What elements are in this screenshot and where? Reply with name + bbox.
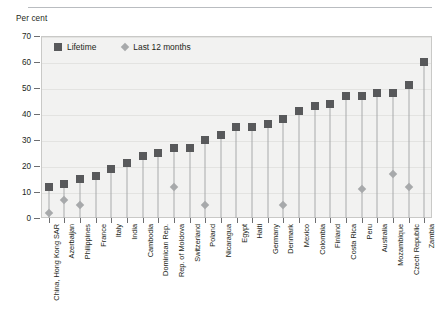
data-column xyxy=(41,36,57,218)
lifetime-marker xyxy=(107,165,115,173)
y-axis-tick xyxy=(34,192,40,193)
data-column xyxy=(323,36,339,218)
data-column xyxy=(213,36,229,218)
stem-line xyxy=(377,93,378,218)
lifetime-marker xyxy=(76,175,84,183)
x-axis-tick xyxy=(174,218,175,223)
data-column xyxy=(385,36,401,218)
data-column xyxy=(416,36,432,218)
x-axis-tick xyxy=(252,218,253,223)
lifetime-marker xyxy=(279,115,287,123)
x-axis-tick xyxy=(299,218,300,223)
x-axis-tick xyxy=(424,218,425,223)
x-axis-tick xyxy=(393,218,394,223)
lifetime-marker xyxy=(201,136,209,144)
stem-line xyxy=(95,176,96,218)
data-column xyxy=(104,36,120,218)
data-column xyxy=(260,36,276,218)
x-axis-tick xyxy=(221,218,222,223)
last-12-months-marker xyxy=(404,183,412,191)
y-axis-label: 10 xyxy=(0,188,31,197)
x-axis-label: Switzerland xyxy=(193,224,202,262)
data-column xyxy=(276,36,292,218)
x-axis-label: China, Hong Kong SAR xyxy=(52,224,61,301)
stem-line xyxy=(236,127,237,218)
data-column xyxy=(369,36,385,218)
legend-label: Last 12 months xyxy=(133,42,190,52)
lifetime-marker xyxy=(389,89,397,97)
data-column xyxy=(307,36,323,218)
x-axis-label: Finland xyxy=(333,224,342,248)
lifetime-marker xyxy=(248,123,256,131)
header-divider xyxy=(28,7,432,8)
stem-line xyxy=(189,148,190,218)
x-axis-tick xyxy=(127,218,128,223)
x-axis-label: Costa Rica xyxy=(349,224,358,260)
last-12-months-marker xyxy=(279,201,287,209)
legend-item-lifetime: Lifetime xyxy=(54,42,96,52)
stem-line xyxy=(142,156,143,218)
lifetime-marker xyxy=(295,107,303,115)
x-axis-label: Rep. of Moldova xyxy=(177,224,186,277)
x-axis-tick xyxy=(111,218,112,223)
last-12-months-marker xyxy=(170,183,178,191)
lifetime-marker xyxy=(45,183,53,191)
lifetime-marker xyxy=(326,100,334,108)
legend-label: Lifetime xyxy=(67,42,96,52)
x-axis-tick xyxy=(268,218,269,223)
data-column xyxy=(150,36,166,218)
y-axis-label: 40 xyxy=(0,110,31,119)
data-column xyxy=(119,36,135,218)
x-axis-label: Dominican Rep. xyxy=(161,224,170,276)
lifetime-marker xyxy=(311,102,319,110)
y-axis-label: 0 xyxy=(0,214,31,223)
x-axis-label: Denmark xyxy=(286,224,295,254)
x-axis-label: Peru xyxy=(365,224,374,239)
data-column xyxy=(72,36,88,218)
last-12-months-marker xyxy=(45,209,53,217)
stem-line xyxy=(111,169,112,218)
legend-item-last-12-months: Last 12 months xyxy=(122,42,190,52)
x-axis-label: Mexico xyxy=(302,224,311,247)
lifetime-marker xyxy=(217,131,225,139)
y-axis-title: Per cent xyxy=(16,14,47,23)
data-column xyxy=(166,36,182,218)
lifetime-marker xyxy=(186,144,194,152)
data-column xyxy=(88,36,104,218)
lifetime-marker xyxy=(358,92,366,100)
data-series-layer xyxy=(41,36,432,218)
chart-figure: Per cent LifetimeLast 12 months 01020304… xyxy=(0,0,440,313)
lifetime-marker xyxy=(139,152,147,160)
x-axis-tick xyxy=(237,218,238,223)
y-axis-tick xyxy=(34,114,40,115)
stem-line xyxy=(392,93,393,218)
data-column xyxy=(244,36,260,218)
stem-line xyxy=(252,127,253,218)
stem-line xyxy=(345,96,346,218)
x-axis-tick xyxy=(362,218,363,223)
stem-line xyxy=(299,111,300,218)
lifetime-marker xyxy=(232,123,240,131)
stem-line xyxy=(424,62,425,218)
stem-line xyxy=(80,179,81,218)
x-axis-label: Azerbaijan xyxy=(67,224,76,258)
y-axis-tick xyxy=(34,166,40,167)
x-axis-label: Poland xyxy=(208,224,217,247)
square-marker-icon xyxy=(54,43,62,51)
x-axis-label: Czech Republic xyxy=(412,224,421,275)
x-axis-label: Egypt xyxy=(240,224,249,243)
y-axis-label: 70 xyxy=(0,32,31,41)
x-axis-label: India xyxy=(130,224,139,240)
stem-line xyxy=(127,163,128,218)
y-axis-tick xyxy=(34,140,40,141)
x-axis-tick xyxy=(190,218,191,223)
diamond-marker-icon xyxy=(121,43,129,51)
x-axis-tick xyxy=(143,218,144,223)
y-axis-tick xyxy=(34,62,40,63)
data-column xyxy=(338,36,354,218)
stem-line xyxy=(220,135,221,218)
y-axis-tick xyxy=(34,88,40,89)
data-column xyxy=(182,36,198,218)
lifetime-marker xyxy=(373,89,381,97)
lifetime-marker xyxy=(60,180,68,188)
